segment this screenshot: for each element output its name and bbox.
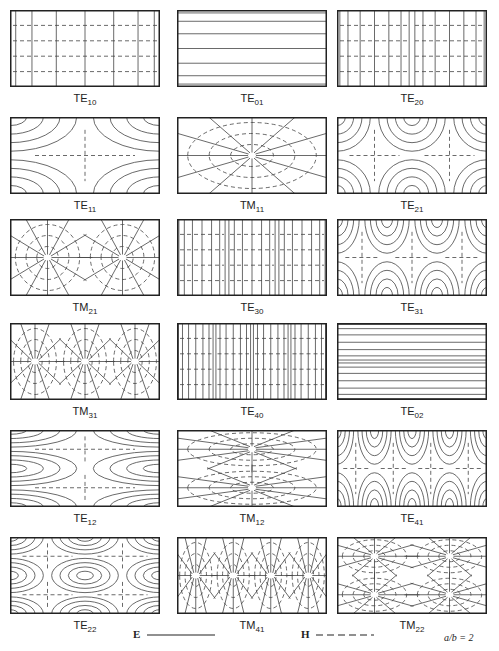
field-pattern bbox=[337, 219, 487, 296]
mode-panel-te02: TE02 bbox=[337, 323, 487, 422]
solid-line-icon bbox=[147, 631, 217, 639]
dashed-line-icon bbox=[316, 631, 376, 639]
mode-label: TE41 bbox=[337, 512, 487, 527]
field-pattern bbox=[337, 537, 487, 614]
mode-panel-te12: TE12 bbox=[10, 430, 160, 529]
mode-label: TE40 bbox=[177, 405, 327, 420]
mode-panel-te21: TE21 bbox=[337, 117, 487, 216]
field-pattern bbox=[177, 537, 327, 614]
mode-label: TE01 bbox=[177, 92, 327, 107]
mode-panel-tm12: TM12 bbox=[177, 430, 327, 529]
mode-panel-te40: TE40 bbox=[177, 323, 327, 422]
mode-panel-tm22: TM22 bbox=[337, 537, 487, 636]
field-pattern bbox=[177, 323, 327, 400]
mode-label: TM21 bbox=[10, 301, 160, 316]
field-pattern bbox=[337, 323, 487, 400]
field-pattern bbox=[337, 117, 487, 194]
field-pattern bbox=[10, 537, 160, 614]
mode-panel-tm21: TM21 bbox=[10, 219, 160, 318]
mode-panel-te22: TE22 bbox=[10, 537, 160, 636]
mode-label: TE31 bbox=[337, 301, 487, 316]
mode-label: TM12 bbox=[177, 512, 327, 527]
field-pattern bbox=[177, 219, 327, 296]
field-pattern bbox=[10, 219, 160, 296]
mode-panel-te10: TE10 bbox=[10, 10, 160, 109]
mode-panel-te01: TE01 bbox=[177, 10, 327, 109]
legend-h-symbol: H bbox=[301, 628, 310, 640]
mode-label: TM31 bbox=[10, 405, 160, 420]
mode-label: TE20 bbox=[337, 92, 487, 107]
mode-panel-te41: TE41 bbox=[337, 430, 487, 529]
field-pattern bbox=[337, 430, 487, 507]
field-pattern bbox=[337, 10, 487, 87]
mode-label: TM11 bbox=[177, 199, 327, 214]
legend-e: E bbox=[133, 628, 217, 640]
legend-e-symbol: E bbox=[133, 628, 140, 640]
mode-panel-tm31: TM31 bbox=[10, 323, 160, 422]
mode-label: TE30 bbox=[177, 301, 327, 316]
field-pattern bbox=[177, 10, 327, 87]
field-pattern bbox=[10, 117, 160, 194]
field-pattern bbox=[10, 323, 160, 400]
field-pattern bbox=[10, 10, 160, 87]
mode-panel-te11: TE11 bbox=[10, 117, 160, 216]
mode-label: TE21 bbox=[337, 199, 487, 214]
mode-label: TE10 bbox=[10, 92, 160, 107]
legend-h: H bbox=[301, 628, 376, 640]
aspect-ratio-label: a/b = 2 bbox=[444, 632, 474, 643]
mode-label: TE11 bbox=[10, 199, 160, 214]
mode-panel-te20: TE20 bbox=[337, 10, 487, 109]
field-pattern bbox=[177, 117, 327, 194]
mode-panel-tm41: TM41 bbox=[177, 537, 327, 636]
mode-label: TE02 bbox=[337, 405, 487, 420]
mode-label: TE12 bbox=[10, 512, 160, 527]
mode-panel-tm11: TM11 bbox=[177, 117, 327, 216]
mode-panel-te30: TE30 bbox=[177, 219, 327, 318]
field-pattern bbox=[177, 430, 327, 507]
field-pattern bbox=[10, 430, 160, 507]
mode-panel-te31: TE31 bbox=[337, 219, 487, 318]
